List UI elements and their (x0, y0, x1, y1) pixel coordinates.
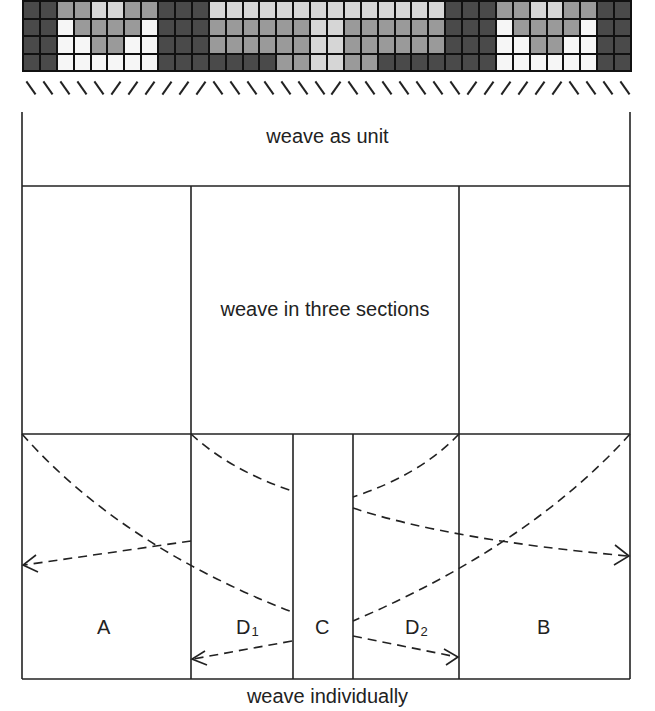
label-b: B (537, 616, 550, 639)
section-diagram (0, 0, 655, 711)
label-a: A (97, 616, 110, 639)
dashed-arrow-d1 (193, 641, 292, 659)
dashed-arrow-d2 (353, 636, 457, 657)
label-d2-subscript: 2 (420, 624, 427, 639)
label-c: C (315, 616, 329, 639)
dashed-arrow-a (24, 541, 191, 565)
dashed-curve-b (353, 434, 630, 621)
label-d1-letter: D (236, 616, 250, 638)
label-d2-letter: D (405, 616, 419, 638)
label-weave-three-sections: weave in three sections (191, 298, 459, 321)
label-d1-subscript: 1 (251, 624, 258, 639)
dashed-curve-d2 (353, 434, 459, 497)
label-d2: D2 (405, 616, 428, 639)
label-weave-as-unit: weave as unit (0, 125, 655, 148)
dashed-curve-d1 (191, 434, 292, 491)
dashed-curve-a (22, 434, 292, 612)
label-weave-individually: weave individually (0, 685, 655, 708)
label-d1: D1 (236, 616, 259, 639)
